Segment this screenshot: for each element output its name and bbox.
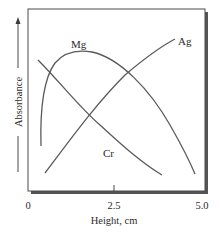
y-axis-label: Absorbance (13, 77, 24, 127)
y-axis-arrow-icon (16, 17, 21, 24)
chart: Mg Ag Cr Absorbance 0 2.5 5.0 Height, cm (0, 0, 221, 233)
x-tick-label-5-0: 5.0 (195, 200, 208, 211)
x-tick-label-2-5: 2.5 (107, 200, 120, 211)
label-ag: Ag (178, 35, 192, 47)
x-tick-label-0: 0 (25, 200, 30, 211)
x-axis-label: Height, cm (91, 215, 138, 226)
label-mg: Mg (71, 38, 87, 50)
label-cr: Cr (103, 147, 114, 159)
